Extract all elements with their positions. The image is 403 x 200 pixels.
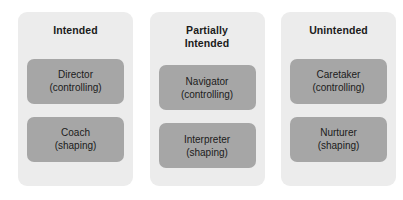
role-name-caretaker: Caretaker [317,68,361,81]
column-header-intended: Intended [27,24,124,37]
role-box-director: Director (controlling) [27,59,124,104]
role-name-director: Director [58,68,93,81]
column-boxes-intended: Director (controlling) Coach (shaping) [27,46,124,174]
roles-diagram: Intended Director (controlling) Coach (s… [0,0,403,200]
role-name-coach: Coach [61,126,90,139]
role-name-interpreter: Interpreter [184,133,230,146]
role-name-navigator: Navigator [186,75,229,88]
column-intended: Intended Director (controlling) Coach (s… [18,12,133,186]
column-unintended: Unintended Caretaker (controlling) Nurtu… [281,12,396,186]
role-box-navigator: Navigator (controlling) [159,65,256,110]
role-mode-director: (controlling) [49,81,101,94]
role-mode-caretaker: (controlling) [312,81,364,94]
role-box-interpreter: Interpreter (shaping) [159,123,256,168]
column-boxes-partially-intended: Navigator (controlling) Interpreter (sha… [159,59,256,174]
role-name-nurturer: Nurturer [320,126,357,139]
column-partially-intended: Partially Intended Navigator (controllin… [150,12,265,186]
column-header-unintended: Unintended [290,24,387,37]
role-mode-interpreter: (shaping) [186,146,228,159]
column-header-partially-intended: Partially Intended [159,24,256,50]
role-mode-coach: (shaping) [55,139,97,152]
role-box-nurturer: Nurturer (shaping) [290,117,387,162]
role-box-coach: Coach (shaping) [27,117,124,162]
role-mode-navigator: (controlling) [181,88,233,101]
role-box-caretaker: Caretaker (controlling) [290,59,387,104]
column-boxes-unintended: Caretaker (controlling) Nurturer (shapin… [290,46,387,174]
role-mode-nurturer: (shaping) [318,139,360,152]
